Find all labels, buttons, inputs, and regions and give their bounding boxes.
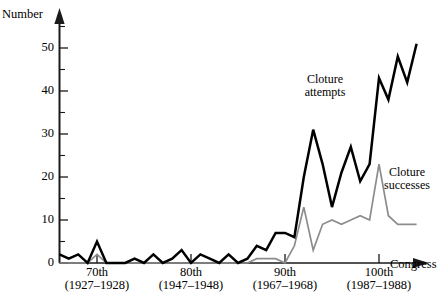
series-line-cloture-attempts (59, 44, 416, 263)
annotation-successes-line2: successes (384, 178, 430, 192)
x-tick-label-100th: 100th (1987–1988) (321, 266, 437, 292)
annotation-cloture-successes: Cloture successes (378, 166, 436, 193)
series-line-cloture-successes (59, 164, 416, 263)
x-tick-years-100th: (1987–1988) (321, 279, 437, 292)
y-tick-label-40: 40 (28, 84, 54, 97)
y-axis-arrowhead (54, 8, 64, 24)
series-layer (59, 44, 416, 263)
annotation-successes-line1: Cloture (389, 165, 425, 179)
annotation-attempts-line1: Cloture (307, 72, 343, 86)
annotation-attempts-line2: attempts (305, 85, 346, 99)
y-tick-label-20: 20 (28, 170, 54, 183)
y-tick-label-50: 50 (28, 41, 54, 54)
y-axis-title: Number (2, 8, 43, 21)
y-tick-label-10: 10 (28, 213, 54, 226)
y-tick-label-30: 30 (28, 127, 54, 140)
annotation-cloture-attempts: Cloture attempts (296, 73, 354, 100)
